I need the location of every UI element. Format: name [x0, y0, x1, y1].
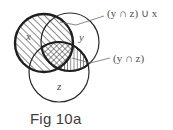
set-label-y: y: [78, 31, 84, 43]
figure-caption: Fig 10a: [30, 110, 82, 127]
annotation-union-label: (y ∩ z) ∪ x: [107, 7, 158, 20]
annotation-intersection-label: (y ∩ z): [113, 52, 144, 65]
venn-diagram: x y z (y ∩ z) ∪ x (y ∩ z) Fig 10a: [0, 0, 173, 130]
figure-container: x y z (y ∩ z) ∪ x (y ∩ z) Fig 10a: [0, 0, 173, 130]
set-label-z: z: [56, 80, 62, 92]
set-label-x: x: [25, 30, 31, 42]
